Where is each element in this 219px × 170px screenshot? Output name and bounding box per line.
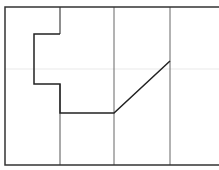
step-diagonal-path bbox=[34, 34, 170, 113]
diagram-canvas bbox=[0, 0, 219, 170]
line-diagram bbox=[0, 0, 219, 170]
outer-frame bbox=[5, 7, 219, 165]
vertical-dividers bbox=[60, 7, 170, 165]
